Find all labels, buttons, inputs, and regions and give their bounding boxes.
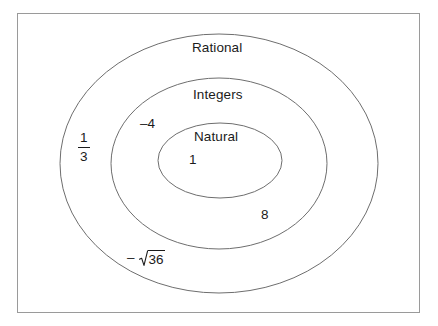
member-one-third-fraction: 1 3	[78, 131, 90, 164]
member-one: 1	[189, 153, 197, 167]
radical: 36	[139, 250, 165, 268]
member-eight: 8	[261, 208, 269, 222]
rational-set-label: Rational	[192, 41, 242, 55]
fraction-denominator: 3	[78, 149, 90, 165]
diagram-canvas: Rational Integers Natural 1 –4 8 1 3 – 3…	[0, 0, 438, 326]
member-negative-sqrt-36: – 36	[127, 249, 165, 268]
minus-sign: –	[127, 250, 135, 267]
radicand: 36	[148, 250, 165, 268]
fraction: 1 3	[78, 131, 90, 164]
fraction-bar	[78, 147, 90, 148]
radical-expression: – 36	[127, 250, 165, 268]
fraction-numerator: 1	[78, 131, 90, 147]
natural-set-label: Natural	[194, 130, 238, 144]
square-root-icon	[139, 250, 148, 266]
member-negative-four: –4	[140, 117, 155, 131]
integers-set-label: Integers	[193, 88, 243, 102]
